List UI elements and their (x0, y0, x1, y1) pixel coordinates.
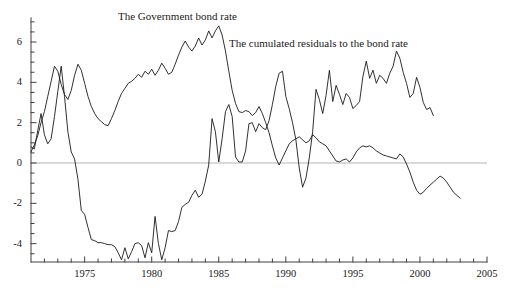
x-tick-label: 1995 (323, 269, 383, 280)
series-label-cumulated-residuals: The cumulated residuals to the bond rate (229, 38, 408, 49)
x-tick-label: 1975 (55, 269, 115, 280)
y-tick-label: -4 (0, 239, 22, 250)
x-tick-label: 1990 (256, 269, 316, 280)
x-tick-label: 2005 (457, 269, 505, 280)
y-tick-label: 0 (0, 158, 22, 169)
x-tick-label: 1980 (122, 269, 182, 280)
x-tick-label: 2000 (390, 269, 450, 280)
x-tick-label: 1985 (189, 269, 249, 280)
y-tick-label: 6 (0, 37, 22, 48)
chart-figure: -4-202461975198019851990199520002005 The… (0, 0, 505, 294)
y-tick-label: 2 (0, 118, 22, 129)
y-tick-label: -2 (0, 198, 22, 209)
series-label-bond-rate: The Government bond rate (118, 11, 237, 22)
y-tick-label: 4 (0, 77, 22, 88)
